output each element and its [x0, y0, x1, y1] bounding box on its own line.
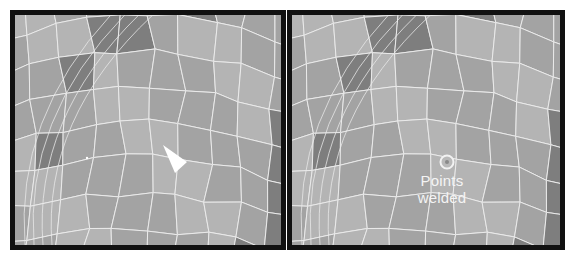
- mesh-polygon[interactable]: [492, 23, 520, 64]
- mesh-polygon[interactable]: [489, 130, 519, 167]
- welded-point-center: [445, 160, 449, 164]
- viewport-before[interactable]: [15, 15, 281, 245]
- mesh-view-before[interactable]: [15, 15, 281, 245]
- mesh-polygon[interactable]: [93, 86, 120, 124]
- mesh-polygon[interactable]: [118, 86, 149, 121]
- mesh-polygon[interactable]: [335, 194, 368, 234]
- mesh-polygon[interactable]: [482, 202, 520, 237]
- mesh-polygon[interactable]: [389, 228, 426, 245]
- mesh-polygon[interactable]: [427, 119, 456, 159]
- mesh-polygon[interactable]: [148, 193, 178, 235]
- mesh-polygons: [292, 15, 560, 245]
- mesh-polygon[interactable]: [120, 119, 153, 154]
- vertex-dot: [86, 157, 88, 159]
- mesh-polygon[interactable]: [178, 124, 213, 165]
- mesh-polygon[interactable]: [396, 86, 427, 121]
- mesh-polygon[interactable]: [214, 23, 242, 64]
- mesh-polygon[interactable]: [307, 93, 344, 133]
- viewport-frame-after: Points welded: [287, 10, 565, 250]
- mesh-polygon[interactable]: [398, 119, 431, 154]
- mesh-view-after[interactable]: [292, 15, 560, 245]
- mesh-polygon[interactable]: [210, 130, 240, 167]
- mesh-polygon[interactable]: [543, 212, 560, 245]
- mesh-polygon[interactable]: [292, 133, 313, 172]
- viewport-after[interactable]: Points welded: [292, 15, 560, 245]
- viewport-frame-before: [10, 10, 286, 250]
- mesh-polygon[interactable]: [268, 180, 281, 216]
- points-welded-label: Points welded: [392, 172, 492, 206]
- label-line-2: welded: [392, 189, 492, 206]
- mesh-polygon[interactable]: [546, 180, 560, 216]
- mesh-polygons: [15, 15, 281, 245]
- mesh-polygon[interactable]: [178, 15, 218, 61]
- mesh-polygon[interactable]: [93, 53, 118, 90]
- mesh-polygon[interactable]: [371, 53, 396, 90]
- mesh-polygon[interactable]: [371, 86, 398, 124]
- mesh-polygon[interactable]: [204, 202, 242, 237]
- label-line-1: Points: [392, 172, 492, 189]
- mesh-polygon[interactable]: [456, 15, 496, 61]
- mesh-polygon[interactable]: [57, 194, 90, 234]
- mesh-polygon[interactable]: [111, 228, 148, 245]
- mesh-polygon[interactable]: [395, 49, 434, 88]
- mesh-polygon[interactable]: [117, 49, 155, 88]
- mesh-polygon[interactable]: [456, 124, 491, 165]
